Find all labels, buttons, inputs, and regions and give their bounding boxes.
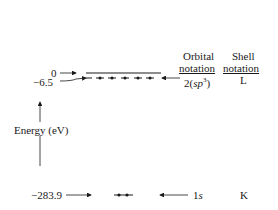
orbital-header-line2: notation <box>179 62 215 74</box>
energy-axis-label: Energy (eV) <box>14 124 68 136</box>
level-sp3-energy-label: −6.5 <box>33 76 53 88</box>
shell-header-line1: Shell <box>232 50 255 62</box>
level-1s-electrons <box>114 193 133 196</box>
shell-header-line2: notation <box>223 62 259 74</box>
level-sp3-electrons <box>86 77 154 80</box>
energy-level-diagram <box>0 0 278 210</box>
level-sp3-shell-label: L <box>240 74 247 86</box>
level-sp3-arrow-left <box>60 78 86 81</box>
level-1s-orbital-label: 1s <box>193 189 203 201</box>
level-1s-energy-label: −283.9 <box>31 189 62 201</box>
level-sp3-orbital-label: 2(sp3) <box>184 74 210 89</box>
orbital-header-line1: Orbital <box>183 50 214 62</box>
level-1s-shell-label: K <box>240 189 248 201</box>
